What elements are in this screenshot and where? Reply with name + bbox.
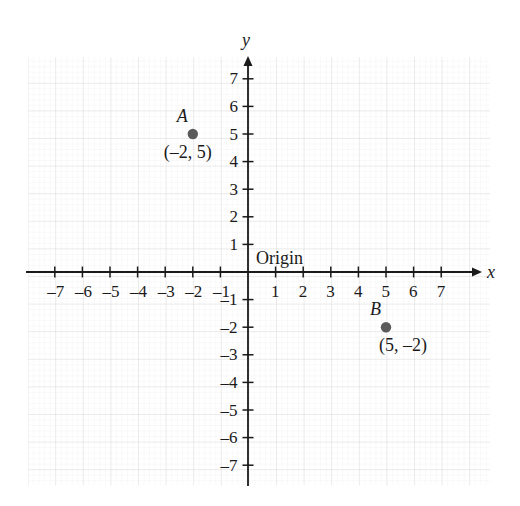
y-tick-label-3: 3 bbox=[230, 181, 239, 198]
y-tick-label-2: 2 bbox=[230, 208, 239, 225]
point-b-coordinates: (5, –2) bbox=[379, 336, 427, 354]
y-tick-label-4: 4 bbox=[230, 153, 239, 170]
x-tick-label-1: 1 bbox=[271, 283, 280, 300]
x-tick-label-7: 7 bbox=[437, 283, 446, 300]
x-tick-label-4: 4 bbox=[354, 283, 363, 300]
y-tick-label--5: –5 bbox=[221, 402, 238, 419]
point-marker-b bbox=[381, 322, 391, 332]
point-a-name: A bbox=[177, 107, 188, 125]
y-tick-label--7: –7 bbox=[221, 457, 238, 474]
x-tick-label-3: 3 bbox=[326, 283, 335, 300]
x-tick-label--7: –7 bbox=[47, 283, 64, 300]
y-tick-label-7: 7 bbox=[230, 70, 239, 87]
x-tick-label--4: –4 bbox=[130, 283, 147, 300]
x-tick-label--6: –6 bbox=[75, 283, 92, 300]
x-tick-label-6: 6 bbox=[409, 283, 418, 300]
y-tick-label--6: –6 bbox=[221, 429, 238, 446]
y-tick-label--3: –3 bbox=[221, 346, 238, 363]
y-tick-label--1: –1 bbox=[221, 291, 238, 308]
x-tick-label-5: 5 bbox=[382, 283, 391, 300]
y-tick-label--2: –2 bbox=[221, 319, 238, 336]
y-tick-label-6: 6 bbox=[230, 98, 239, 115]
point-marker-a bbox=[188, 129, 198, 139]
origin-label: Origin bbox=[256, 249, 303, 267]
x-tick-label-2: 2 bbox=[299, 283, 308, 300]
figure-canvas: x y Origin A (–2, 5) B (5, –2) –7–6–5–4–… bbox=[0, 0, 520, 506]
x-axis-label: x bbox=[487, 263, 495, 281]
y-tick-label-5: 5 bbox=[230, 126, 239, 143]
x-tick-label--5: –5 bbox=[103, 283, 120, 300]
y-tick-label--4: –4 bbox=[221, 374, 238, 391]
point-a-coordinates: (–2, 5) bbox=[164, 143, 212, 161]
point-b-name: B bbox=[370, 300, 381, 318]
x-tick-label--3: –3 bbox=[158, 283, 175, 300]
y-tick-label-1: 1 bbox=[230, 236, 239, 253]
x-tick-label--2: –2 bbox=[185, 283, 202, 300]
y-axis-label: y bbox=[242, 31, 250, 49]
